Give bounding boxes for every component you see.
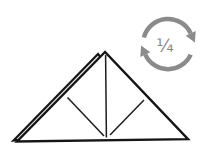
origami-diagram: ¼ <box>0 0 204 154</box>
rotate-quarter-icon: ¼ <box>140 19 195 69</box>
rotate-arrow-bottom-arc <box>145 55 190 70</box>
rotation-fraction-label: ¼ <box>156 35 173 56</box>
triangle-front-layer <box>17 52 188 142</box>
diagram-canvas: ¼ <box>0 0 204 154</box>
center-crease-line <box>106 55 107 138</box>
folded-triangle-shape <box>14 52 189 142</box>
